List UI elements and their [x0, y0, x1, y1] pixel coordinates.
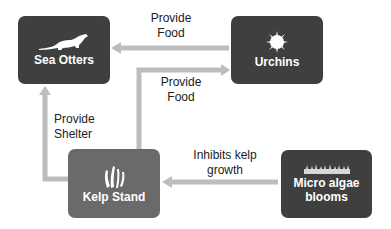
arrow-urchins-to-otters	[111, 42, 229, 54]
node-urchins: Urchins	[231, 16, 323, 84]
otter-icon	[39, 33, 89, 51]
node-label-line2: blooms	[305, 190, 348, 204]
edge-label-line: Provide	[54, 112, 114, 127]
kelp-icon	[103, 164, 125, 188]
edge-label-kelp-to-otters: Provide Shelter	[54, 112, 114, 142]
node-label-line1: Micro algae	[293, 176, 359, 190]
urchin-icon	[266, 31, 288, 53]
edge-label-line: growth	[183, 163, 267, 178]
node-micro-algae-blooms: Micro algae blooms	[281, 150, 372, 218]
edge-label-kelp-to-urchins: Provide Food	[150, 75, 212, 105]
node-sea-otters: Sea Otters	[18, 16, 110, 84]
node-label: Urchins	[255, 55, 300, 69]
algae-icon	[304, 164, 350, 174]
edge-label-line: Food	[140, 26, 202, 41]
edge-label-line: Inhibits kelp	[183, 148, 267, 163]
node-kelp-stand: Kelp Stand	[68, 149, 160, 218]
node-label: Sea Otters	[34, 53, 94, 67]
edge-label-algae-to-kelp: Inhibits kelp growth	[183, 148, 267, 178]
node-label: Kelp Stand	[83, 190, 146, 204]
edge-label-line: Provide	[140, 11, 202, 26]
edge-label-line: Food	[150, 90, 212, 105]
edge-label-urchins-to-otters: Provide Food	[140, 11, 202, 41]
edge-label-line: Shelter	[54, 127, 114, 142]
edge-label-line: Provide	[150, 75, 212, 90]
